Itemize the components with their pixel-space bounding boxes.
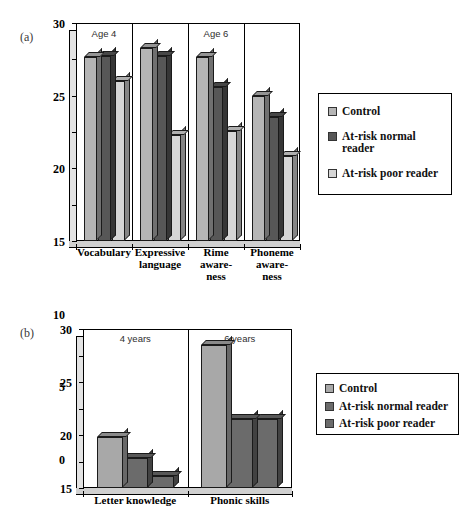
y-axis-tick: 5 [79, 462, 84, 463]
y-axis-tick: 0 [72, 241, 77, 242]
legend-label: At-risk poor reader [342, 167, 438, 180]
legend-swatch [328, 169, 337, 178]
category-label: Phoneme aware- ness [244, 246, 300, 282]
y-axis-tick: 20 [79, 382, 84, 383]
x-axis-tick [300, 244, 301, 250]
y-axis-tick: 30 [79, 329, 84, 330]
group-separator [132, 23, 133, 241]
y-axis-tick: 15 [79, 409, 84, 410]
bar [252, 96, 265, 241]
bar-side-face [125, 72, 130, 240]
legend-label: At-risk normal reader [342, 130, 416, 155]
group-annotation: Age 6 [188, 28, 244, 39]
x-axis-tick [188, 244, 189, 250]
y-axis-tick-label: 15 [60, 482, 72, 497]
y-axis-tick: 0 [79, 488, 84, 489]
legend-swatch [328, 132, 337, 141]
panel-a-legend: ControlAt-risk normal readerAt-risk poor… [318, 93, 452, 195]
bar-side-face [237, 122, 242, 240]
x-axis-tick [83, 491, 84, 497]
bar [201, 345, 227, 488]
panel-b-legend: ControlAt-risk normal readerAt-risk poor… [316, 373, 459, 435]
y-axis-tick: 20 [72, 96, 77, 97]
panel-a-label: (a) [20, 30, 33, 45]
y-axis-tick: 30 [72, 23, 77, 24]
bar-side-face [167, 47, 172, 240]
category-label: Phonic skills [188, 494, 293, 506]
y-axis-tick: 15 [72, 132, 77, 133]
bar [97, 437, 123, 488]
x-axis-tick [132, 244, 133, 250]
y-axis-tick-label: 25 [60, 376, 72, 391]
legend-item: Control [328, 105, 451, 118]
legend-label: Control [342, 105, 380, 118]
category-label: Vocabulary [76, 246, 132, 258]
x-axis-tick [76, 244, 77, 250]
y-axis-tick: 25 [72, 59, 77, 60]
bar-side-face [181, 126, 186, 240]
y-axis-tick-label: 30 [53, 17, 65, 32]
bar-side-face [279, 108, 284, 240]
plot-left-wall [76, 336, 83, 495]
panel-a: (a) Age 4Age 6 051015202530 VocabularyEx… [0, 0, 469, 300]
bar-side-face [278, 410, 283, 487]
group-annotation: 4 years [83, 333, 188, 344]
legend-swatch [328, 107, 337, 116]
legend-label: At-risk normal reader [339, 400, 448, 413]
panel-a-y-axis: 051015202530 [76, 23, 77, 241]
panel-b-plot-area: 4 years6 years [83, 329, 292, 488]
y-axis-tick: 10 [72, 168, 77, 169]
y-axis-tick-label: 25 [53, 89, 65, 104]
legend-swatch [325, 419, 334, 428]
group-separator [188, 23, 189, 241]
group-separator [244, 23, 245, 241]
legend-swatch [325, 402, 334, 411]
legend-item: Control [325, 382, 458, 395]
bar-side-face [293, 147, 298, 240]
y-axis-tick-label: 20 [60, 429, 72, 444]
x-axis-tick [244, 244, 245, 250]
bar [140, 48, 153, 241]
panel-b-label: (b) [20, 326, 34, 341]
legend-label: Control [339, 382, 377, 395]
panel-a-plot-area: Age 4Age 6 [76, 23, 300, 241]
category-label: Letter knowledge [83, 494, 188, 506]
bar-top-face [97, 432, 131, 437]
legend-item: At-risk poor reader [328, 167, 451, 180]
x-axis-tick [188, 491, 189, 497]
y-axis-tick: 5 [72, 205, 77, 206]
x-axis-tick [292, 491, 293, 497]
bar [196, 57, 209, 241]
group-separator [188, 329, 189, 488]
bar-side-face [97, 48, 102, 240]
panel-b: (b) 4 years6 years 051015202530 Letter k… [0, 300, 469, 526]
y-axis-tick-label: 15 [53, 235, 65, 250]
bar-top-face [201, 340, 235, 345]
legend-item: At-risk normal reader [325, 400, 458, 413]
y-axis-tick: 25 [79, 356, 84, 357]
bar-side-face [153, 39, 158, 240]
category-label: Rime aware- ness [188, 246, 244, 282]
legend-swatch [325, 384, 334, 393]
bar-side-face [265, 87, 270, 240]
bar-side-face [111, 47, 116, 240]
bar-side-face [227, 336, 232, 487]
bar-side-face [223, 78, 228, 240]
legend-item: At-risk normal reader [328, 130, 451, 155]
plot-left-wall [69, 30, 76, 248]
bar-side-face [253, 410, 258, 487]
bar-side-face [209, 48, 214, 240]
panel-b-y-axis: 051015202530 [83, 329, 84, 488]
y-axis-tick-label: 30 [60, 323, 72, 338]
legend-label: At-risk poor reader [339, 417, 435, 430]
y-axis-tick: 10 [79, 435, 84, 436]
bar [84, 57, 97, 241]
y-axis-tick-label: 20 [53, 162, 65, 177]
legend-item: At-risk poor reader [325, 417, 458, 430]
group-annotation: Age 4 [76, 28, 132, 39]
category-label: Expressive language [132, 246, 188, 270]
